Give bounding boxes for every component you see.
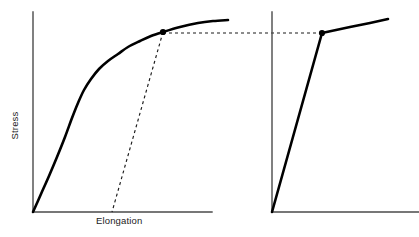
x-axis-label: Elongation	[96, 215, 142, 226]
gradual-yield-panel	[33, 12, 322, 212]
sharp-yield-panel	[272, 12, 419, 212]
y-axis-label: Stress	[9, 104, 20, 148]
left-yield-point-marker	[160, 29, 166, 35]
figure-container: Stress Elongation	[0, 0, 419, 237]
right-yield-point-marker	[319, 30, 325, 36]
right-elastic-post-yield-line	[272, 19, 388, 212]
figure-canvas	[0, 0, 419, 237]
left-unloading-dashed-line	[112, 32, 163, 212]
left-loading-curve	[33, 20, 228, 212]
